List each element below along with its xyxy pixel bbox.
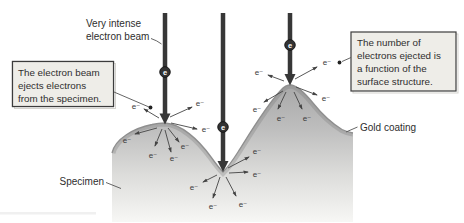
ejected-electron-label: e⁻ xyxy=(239,200,248,209)
ejected-electron-label: e⁻ xyxy=(253,105,262,114)
right-callout-line4: surface structure. xyxy=(357,76,433,87)
right-callout-line2: electrons ejected is xyxy=(357,50,441,61)
ejected-electron-label: e⁻ xyxy=(181,142,190,151)
ejected-electron-label: e⁻ xyxy=(303,114,312,123)
left-callout-line3: from the specimen. xyxy=(18,93,101,104)
electron-beam-3: e xyxy=(285,13,296,86)
right-callout: The number of electrons ejected is a fun… xyxy=(338,32,458,93)
beam-shaft xyxy=(163,13,168,115)
ejected-electron-label: e⁻ xyxy=(123,136,132,145)
beam-shaft xyxy=(221,13,226,162)
electron-beam-2: e xyxy=(218,13,229,172)
scan-artifact-line xyxy=(0,212,96,215)
specimen-label: Specimen xyxy=(60,176,104,187)
left-callout-pointer-dot xyxy=(149,106,153,110)
ejected-electron-arrow xyxy=(144,109,159,118)
ejected-electron-label: e⁻ xyxy=(277,114,286,123)
ejected-electron-label: e⁻ xyxy=(170,154,179,163)
ejected-electron-label: e⁻ xyxy=(323,58,332,67)
right-callout-pointer-dot xyxy=(338,61,342,65)
ejected-electron-label: e⁻ xyxy=(253,170,262,179)
ejected-electron-label: e⁻ xyxy=(253,147,262,156)
beam-arrowhead-icon xyxy=(285,74,296,86)
diagram-canvas: e e e e⁻ e⁻ e⁻ e⁻ e⁻ e⁻ e⁻ xyxy=(0,0,464,223)
ejected-electron-arrow xyxy=(268,75,284,81)
ejected-electron-label: e⁻ xyxy=(149,151,158,160)
ejected-electron-label: e⁻ xyxy=(196,99,205,108)
ejected-electron-arrow xyxy=(295,67,317,79)
right-callout-line3: a function of the xyxy=(357,63,427,74)
electron-beam-1: e xyxy=(160,13,171,125)
electron-icon-label: e xyxy=(221,123,225,132)
ejected-electron-label: e⁻ xyxy=(209,202,218,211)
gold-coating-label: Gold coating xyxy=(360,122,416,133)
ejected-electron-label: e⁻ xyxy=(322,94,331,103)
ejected-electron-arrow xyxy=(170,107,192,117)
ejected-electron-label: e⁻ xyxy=(190,183,199,192)
electron-icon-label: e xyxy=(288,41,292,50)
left-callout-line1: The electron beam xyxy=(18,67,100,78)
left-callout-line2: ejects electrons xyxy=(18,80,86,91)
beam-label-line1: Very intense xyxy=(86,18,141,29)
ejected-electron-label: e⁻ xyxy=(255,68,264,77)
gold-coating-pointer-line xyxy=(346,127,358,132)
beam-label-pointer-line xyxy=(151,39,162,45)
electron-icon-label: e xyxy=(163,68,167,77)
beam-label-line2: electron beam xyxy=(86,31,149,42)
ejected-electron-label: e⁻ xyxy=(202,125,211,134)
right-callout-line1: The number of xyxy=(357,37,421,48)
right-callout-pointer-line xyxy=(342,58,351,62)
ejected-electron-label: e⁻ xyxy=(132,102,141,111)
sem-electron-beam-diagram: e e e e⁻ e⁻ e⁻ e⁻ e⁻ e⁻ e⁻ xyxy=(0,0,464,223)
